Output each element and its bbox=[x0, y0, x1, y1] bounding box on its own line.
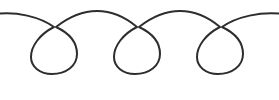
three-loop-flourish-icon: Looping flourish divider ornament bbox=[0, 0, 279, 100]
ornament-canvas: Looping flourish divider ornament bbox=[0, 0, 279, 100]
flourish-line-path bbox=[0, 11, 279, 74]
